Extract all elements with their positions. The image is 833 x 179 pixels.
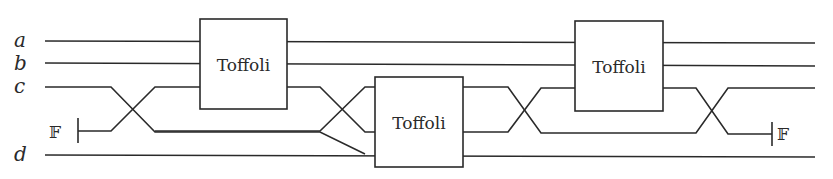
ancilla-output-label: 𝔽 — [777, 124, 789, 144]
toffoli-gate-3: Toffoli — [575, 21, 663, 111]
wire-label-a: a — [14, 28, 26, 52]
toffoli-gate-3-label: Toffoli — [592, 57, 646, 77]
toffoli-gate-1-label: Toffoli — [217, 55, 271, 75]
toffoli-gate-1: Toffoli — [200, 19, 287, 109]
toffoli-gate-2: Toffoli — [375, 77, 463, 167]
wire-a — [45, 41, 815, 43]
swap-2-a — [287, 87, 375, 132]
swap-4-a — [663, 88, 772, 134]
wire-b — [45, 63, 815, 66]
toffoli-gate-2-label: Toffoli — [392, 113, 446, 133]
wire-label-c: c — [14, 74, 25, 98]
wire-label-d: d — [14, 142, 27, 166]
circuit-diagram: a b c d 𝔽 𝔽 Toffoli Toffoli Toffoli — [0, 0, 833, 179]
ancilla-input-label: 𝔽 — [49, 122, 61, 142]
swap-3-b — [463, 88, 575, 132]
wire-label-b: b — [14, 51, 27, 75]
